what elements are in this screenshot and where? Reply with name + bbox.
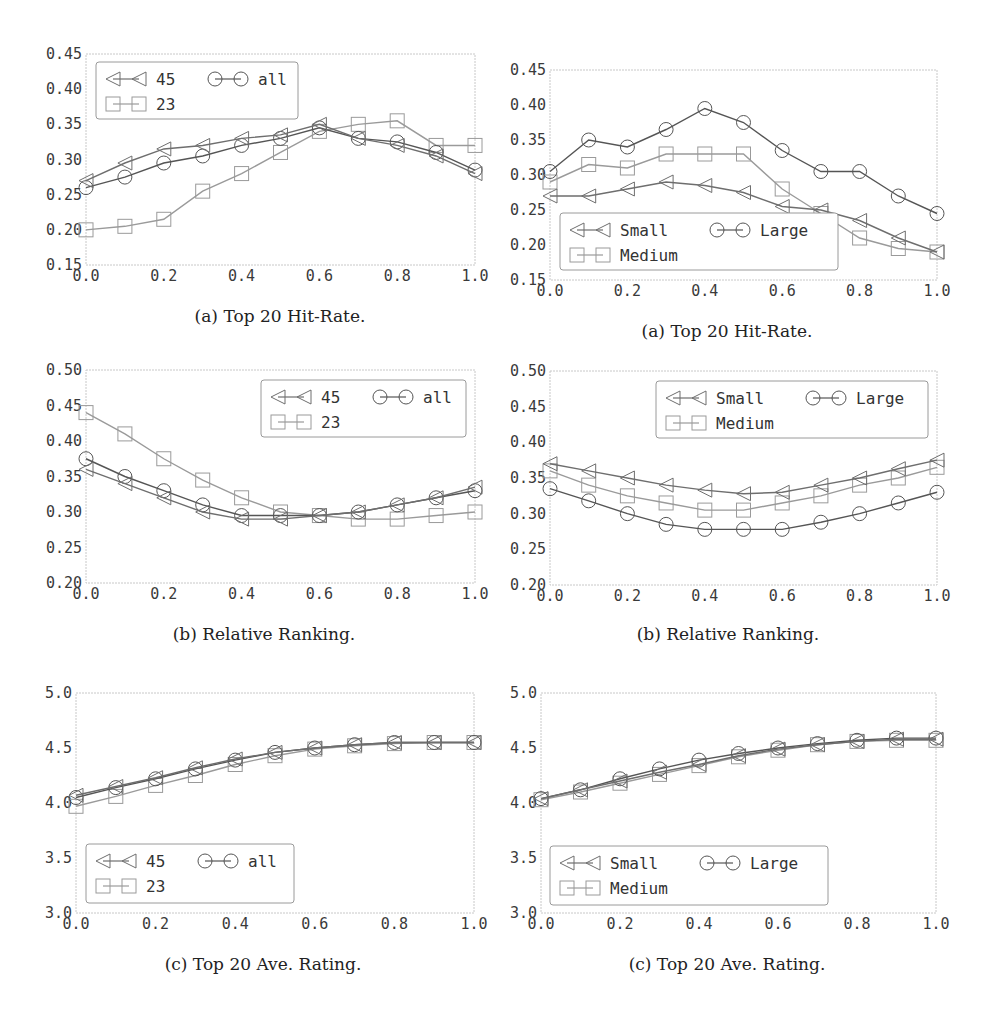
legend: 45all23	[261, 380, 466, 437]
x-tick-label: 0.0	[527, 915, 554, 933]
x-tick-label: 0.8	[843, 915, 870, 933]
legend-label: Small	[716, 389, 764, 408]
y-tick-label: 0.40	[510, 433, 546, 451]
y-tick-label: 4.5	[510, 739, 537, 757]
y-tick-label: 0.20	[46, 221, 82, 239]
chart-top-left-hit-rate: (a) Top 20 Hit-Rate. 0.150.200.250.300.3…	[46, 45, 489, 326]
y-tick-label: 0.40	[46, 80, 82, 98]
caption-bottom-right: (c) Top 20 Ave. Rating.	[629, 954, 826, 974]
y-tick-label: 0.30	[510, 166, 546, 184]
legend-label: Medium	[620, 246, 678, 265]
legend-label: Large	[856, 389, 904, 408]
legend-label: Small	[610, 854, 658, 873]
x-tick-label: 0.2	[150, 585, 177, 603]
figure-grid: (a) Top 20 Hit-Rate. 0.150.200.250.300.3…	[0, 0, 986, 1015]
y-tick-label: 0.25	[46, 539, 82, 557]
y-tick-label: 5.0	[45, 684, 72, 702]
legend-label: 23	[321, 413, 340, 432]
y-tick-label: 3.5	[45, 849, 72, 867]
legend-label: Large	[760, 221, 808, 240]
chart-mid-left-relative-ranking: (b) Relative Ranking. 0.200.250.300.350.…	[46, 361, 489, 644]
y-tick-label: 0.25	[510, 540, 546, 558]
x-tick-label: 0.2	[142, 915, 169, 933]
x-tick-label: 0.2	[614, 587, 641, 605]
charts-canvas: (a) Top 20 Hit-Rate. 0.150.200.250.300.3…	[0, 0, 986, 1015]
legend-label: all	[248, 852, 277, 871]
x-tick-label: 1.0	[922, 915, 949, 933]
x-tick-label: 0.0	[72, 267, 99, 285]
legend-label: Large	[750, 854, 798, 873]
x-tick-label: 0.4	[691, 587, 718, 605]
chart-top-right-hit-rate: (a) Top 20 Hit-Rate. 0.150.200.250.300.3…	[510, 61, 951, 341]
chart-mid-right-relative-ranking: (b) Relative Ranking. 0.200.250.300.350.…	[510, 362, 951, 644]
x-tick-label: 0.4	[685, 915, 712, 933]
x-tick-label: 0.4	[228, 585, 255, 603]
y-tick-label: 5.0	[510, 684, 537, 702]
y-tick-label: 4.5	[45, 739, 72, 757]
y-tick-label: 0.45	[510, 61, 546, 79]
y-tick-label: 0.50	[510, 362, 546, 380]
caption-mid-right: (b) Relative Ranking.	[637, 624, 820, 644]
x-tick-label: 0.2	[606, 915, 633, 933]
x-tick-label: 0.6	[301, 915, 328, 933]
legend-label: all	[423, 388, 452, 407]
legend: SmallLargeMedium	[656, 381, 928, 438]
x-tick-label: 0.8	[846, 587, 873, 605]
x-tick-label: 0.8	[846, 282, 873, 300]
y-tick-label: 0.35	[510, 469, 546, 487]
legend: 45all23	[96, 62, 298, 119]
y-tick-label: 0.30	[46, 151, 82, 169]
x-tick-label: 0.0	[72, 585, 99, 603]
legend-label: Medium	[716, 414, 774, 433]
y-tick-label: 3.5	[510, 849, 537, 867]
chart-bottom-right-ave-rating: (c) Top 20 Ave. Rating. 3.03.54.04.55.00…	[510, 684, 950, 974]
legend-label: 23	[146, 877, 165, 896]
y-tick-label: 0.25	[510, 201, 546, 219]
y-tick-label: 0.45	[46, 45, 82, 63]
x-tick-label: 0.0	[62, 915, 89, 933]
x-tick-label: 0.6	[306, 585, 333, 603]
legend-label: all	[258, 70, 287, 89]
x-tick-label: 0.8	[381, 915, 408, 933]
x-tick-label: 1.0	[923, 282, 950, 300]
legend: SmallLargeMedium	[560, 213, 838, 270]
caption-top-left: (a) Top 20 Hit-Rate.	[195, 306, 366, 326]
y-tick-label: 0.45	[46, 397, 82, 415]
legend-label: 45	[321, 388, 340, 407]
x-tick-label: 0.6	[306, 267, 333, 285]
x-tick-label: 1.0	[923, 587, 950, 605]
chart-bottom-left-ave-rating: (c) Top 20 Ave. Rating. 3.03.54.04.55.00…	[45, 684, 488, 974]
legend-label: Medium	[610, 879, 668, 898]
y-tick-label: 0.35	[46, 115, 82, 133]
y-tick-label: 0.40	[46, 432, 82, 450]
x-tick-label: 1.0	[461, 585, 488, 603]
x-tick-label: 0.4	[222, 915, 249, 933]
y-tick-label: 0.35	[46, 468, 82, 486]
x-tick-label: 0.6	[769, 282, 796, 300]
x-tick-label: 0.0	[536, 587, 563, 605]
x-tick-label: 0.6	[769, 587, 796, 605]
caption-mid-left: (b) Relative Ranking.	[173, 624, 356, 644]
x-tick-label: 1.0	[460, 915, 487, 933]
y-tick-label: 0.20	[510, 236, 546, 254]
y-tick-label: 4.0	[510, 794, 537, 812]
x-tick-label: 0.0	[536, 282, 563, 300]
x-tick-label: 0.4	[228, 267, 255, 285]
y-tick-label: 0.40	[510, 96, 546, 114]
y-tick-label: 0.25	[46, 186, 82, 204]
x-tick-label: 0.6	[764, 915, 791, 933]
x-tick-label: 0.4	[691, 282, 718, 300]
x-tick-label: 0.2	[614, 282, 641, 300]
x-tick-label: 1.0	[461, 267, 488, 285]
caption-bottom-left: (c) Top 20 Ave. Rating.	[165, 954, 362, 974]
x-tick-label: 0.2	[150, 267, 177, 285]
y-tick-label: 0.45	[510, 398, 546, 416]
legend-label: 45	[146, 852, 165, 871]
legend-label: 45	[156, 70, 175, 89]
x-tick-label: 0.8	[384, 585, 411, 603]
caption-top-right: (a) Top 20 Hit-Rate.	[642, 321, 813, 341]
legend: 45all23	[86, 844, 294, 903]
legend: SmallLargeMedium	[550, 846, 828, 905]
x-tick-label: 0.8	[384, 267, 411, 285]
y-tick-label: 0.35	[510, 131, 546, 149]
